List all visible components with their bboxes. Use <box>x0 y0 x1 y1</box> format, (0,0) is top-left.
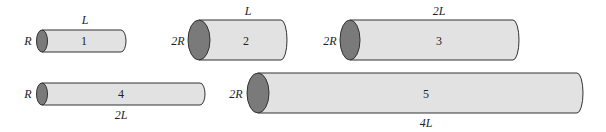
cylinder-1: 1 R L <box>23 13 126 52</box>
cylinder-id: 5 <box>423 87 429 101</box>
length-label: 4L <box>420 116 433 130</box>
radius-label: R <box>23 34 32 48</box>
length-label: 2L <box>115 108 128 122</box>
radius-label: 2R <box>229 87 243 101</box>
radius-label: 2R <box>323 34 337 48</box>
cylinder-id: 4 <box>118 87 124 101</box>
cylinder-3: 3 2R 2L <box>323 4 519 60</box>
cylinder-id: 2 <box>243 34 249 48</box>
radius-label: 2R <box>171 34 185 48</box>
cylinder-5: 5 2R 4L <box>229 73 583 130</box>
length-label: L <box>244 4 252 18</box>
cylinder-2: 2 2R L <box>171 4 287 60</box>
radius-label: R <box>23 87 32 101</box>
cylinder-id: 3 <box>436 34 442 48</box>
cylinders-diagram: 1 R L 2 2R L 3 2R 2L 4 R 2L 5 2R 4L <box>0 0 606 132</box>
cylinder-id: 1 <box>81 34 87 48</box>
length-label: 2L <box>433 4 446 18</box>
length-label: L <box>81 13 89 27</box>
cylinder-4: 4 R 2L <box>23 83 205 122</box>
